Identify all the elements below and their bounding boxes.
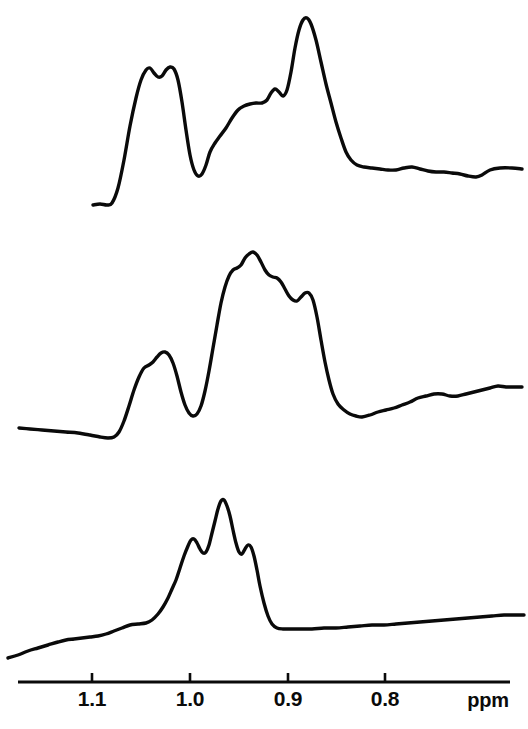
axis-unit-label: ppm (467, 689, 508, 711)
trace-group-middle (19, 252, 522, 438)
trace-group-top (93, 18, 522, 205)
axis-tick-label-1.0: 1.0 (176, 687, 204, 710)
nmr-spectrum-figure: 1.11.00.90.8 ppm (0, 0, 528, 729)
axis-tick-label-0.8: 0.8 (371, 687, 400, 710)
trace-group-bottom (8, 500, 524, 658)
trace-bottom (8, 500, 524, 658)
axis-ticks: 1.11.00.90.8 (78, 673, 400, 710)
spectra-canvas: 1.11.00.90.8 ppm (0, 0, 528, 729)
trace-top (93, 18, 522, 205)
ppm-axis: 1.11.00.90.8 ppm (18, 673, 510, 711)
trace-middle (19, 252, 522, 438)
axis-tick-label-1.1: 1.1 (78, 687, 107, 710)
axis-tick-label-0.9: 0.9 (274, 687, 302, 710)
